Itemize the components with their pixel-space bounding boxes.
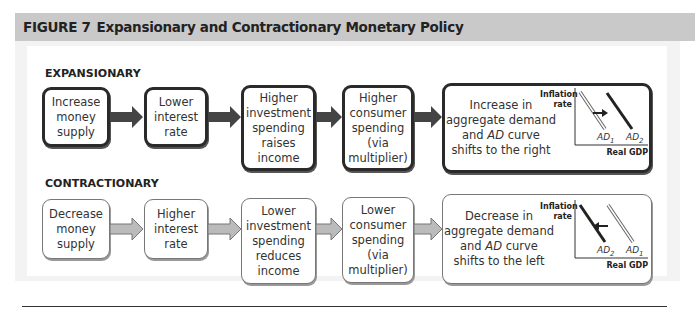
curve-label-ad1: AD1 xyxy=(597,132,615,145)
arrow-right-icon xyxy=(208,105,242,129)
step-text: Higher interest rate xyxy=(145,207,207,252)
bottom-rule xyxy=(22,306,667,307)
step-higher-investment: Higher investment spending raises income xyxy=(241,85,316,171)
step-lower-interest-rate: Lower interest rate xyxy=(144,87,208,147)
figure-header: FIGURE 7Expansionary and Contractionary … xyxy=(15,13,695,41)
step-higher-consumer-spending: Higher consumer spending (via multiplier… xyxy=(342,85,414,171)
step-text: Higher investment spending raises income xyxy=(244,91,313,166)
x-axis-label: Real GDP xyxy=(600,148,648,158)
step-text: Decrease money supply xyxy=(43,207,109,252)
figure-title: FIGURE 7Expansionary and Contractionary … xyxy=(23,19,463,35)
step-higher-interest-rate: Higher interest rate xyxy=(144,199,208,259)
figure-label: FIGURE 7 xyxy=(23,19,91,35)
expansionary-heading: EXPANSIONARY xyxy=(45,67,141,80)
step-lower-investment: Lower investment spending reduces income xyxy=(241,198,316,284)
arrow-right-icon xyxy=(414,105,443,129)
step-text: Increase money supply xyxy=(45,95,107,140)
step-text: Lower consumer spending (via multiplier) xyxy=(343,203,413,278)
step-text: Lower investment spending reduces income xyxy=(242,204,315,279)
step-text: Lower interest rate xyxy=(147,95,205,140)
arrow-right-icon xyxy=(208,217,242,241)
arrow-right-icon xyxy=(110,105,144,129)
step-decrease-money-supply: Decrease money supply xyxy=(42,199,110,259)
step-text: Higher consumer spending (via multiplier… xyxy=(345,91,411,166)
x-axis-label: Real GDP xyxy=(600,261,648,271)
curve-label-ad2: AD2 xyxy=(626,132,644,145)
curve-label-ad2: AD2 xyxy=(597,245,615,258)
arrow-right-icon xyxy=(110,217,144,241)
step-lower-consumer-spending: Lower consumer spending (via multiplier) xyxy=(342,197,414,283)
figure-title-text: Expansionary and Contractionary Monetary… xyxy=(97,19,464,35)
arrow-right-icon xyxy=(316,217,343,241)
arrow-right-icon xyxy=(316,105,343,129)
step-increase-money-supply: Increase money supply xyxy=(42,87,110,147)
step-text: Decrease in aggregate demand and AD curv… xyxy=(443,209,555,269)
ad-shift-left-graph xyxy=(566,200,650,270)
contractionary-heading: CONTRACTIONARY xyxy=(45,177,159,190)
curve-label-ad1: AD1 xyxy=(626,245,644,258)
arrow-right-icon xyxy=(414,217,443,241)
